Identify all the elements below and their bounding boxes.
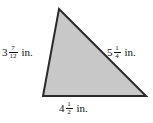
side-label-bottom: 4 1 2 in. — [59, 101, 88, 117]
right-unit: in. — [125, 47, 136, 58]
left-unit: in. — [22, 47, 33, 58]
bottom-denominator: 2 — [66, 109, 72, 116]
left-denominator: 12 — [9, 53, 18, 60]
right-numerator: 1 — [114, 45, 120, 52]
geometry-figure: 3 7 12 in. 5 1 4 in. 4 1 2 in. — [0, 0, 153, 123]
right-denominator: 4 — [114, 53, 120, 60]
left-numerator: 7 — [10, 45, 16, 52]
bottom-whole-number: 4 — [59, 103, 65, 114]
side-label-left: 3 7 12 in. — [2, 45, 33, 61]
left-whole-number: 3 — [2, 47, 8, 58]
bottom-unit: in. — [77, 103, 88, 114]
bottom-fraction: 1 2 — [66, 101, 73, 117]
right-fraction: 1 4 — [114, 45, 121, 61]
right-whole-number: 5 — [107, 47, 113, 58]
left-fraction: 7 12 — [9, 45, 18, 61]
side-label-right: 5 1 4 in. — [107, 45, 136, 61]
bottom-numerator: 1 — [66, 101, 72, 108]
